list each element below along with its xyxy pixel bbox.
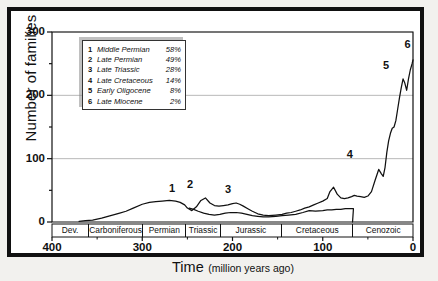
x-tick-label-300: 300 xyxy=(122,241,162,253)
legend-number: 5 xyxy=(88,86,97,96)
event-marker-4: 4 xyxy=(347,148,353,160)
chart-figure: Number of families Time (million years a… xyxy=(0,0,438,281)
legend-percent: 2% xyxy=(163,96,181,106)
legend-percent: 49% xyxy=(163,54,181,64)
x-tick-label-200: 200 xyxy=(213,241,253,253)
period-band-cenozoic: Cenozoic xyxy=(353,224,413,237)
legend-event-name: Late Triassic xyxy=(97,65,163,75)
legend-percent: 28% xyxy=(163,65,181,75)
event-marker-3: 3 xyxy=(225,183,231,195)
legend-number: 1 xyxy=(88,44,97,54)
legend-box: 1Middle Permian58%2Late Permian49%3Late … xyxy=(82,40,186,110)
x-axis-title-main: Time xyxy=(172,259,204,275)
legend-percent: 58% xyxy=(163,44,181,54)
x-tick-label-0: 0 xyxy=(393,241,433,253)
legend-percent: 8% xyxy=(163,86,181,96)
y-tick-label-300: 300 xyxy=(11,25,45,37)
x-tick-label-100: 100 xyxy=(303,241,343,253)
legend-row: 1Middle Permian58% xyxy=(88,44,181,54)
legend-event-name: Late Cretaceous xyxy=(97,75,163,85)
period-band-jurassic: Jurassic xyxy=(221,224,282,237)
legend-number: 3 xyxy=(88,65,97,75)
y-tick-label-200: 200 xyxy=(11,88,45,100)
period-band-triassic: Triassic xyxy=(186,224,220,237)
legend-event-name: Middle Permian xyxy=(97,44,163,54)
period-band-permian: Permian xyxy=(143,224,186,237)
event-marker-1: 1 xyxy=(169,182,175,194)
y-tick-label-0: 0 xyxy=(11,215,45,227)
y-tick-label-100: 100 xyxy=(11,152,45,164)
legend-number: 2 xyxy=(88,54,97,64)
legend-event-name: Late Permian xyxy=(97,54,163,64)
legend-row: 6Late Miocene2% xyxy=(88,96,181,106)
legend-number: 4 xyxy=(88,75,97,85)
event-marker-6: 6 xyxy=(405,38,411,50)
legend-event-name: Early Oligocene xyxy=(97,86,163,96)
legend-row: 3Late Triassic28% xyxy=(88,65,181,75)
x-axis-title: Time (million years ago) xyxy=(52,258,414,276)
event-marker-5: 5 xyxy=(383,59,389,71)
legend-table: 1Middle Permian58%2Late Permian49%3Late … xyxy=(88,44,181,106)
legend-percent: 14% xyxy=(163,75,181,85)
x-tick-label-400: 400 xyxy=(32,241,72,253)
x-axis-title-sub: (million years ago) xyxy=(208,262,294,274)
legend-event-name: Late Miocene xyxy=(97,96,163,106)
legend-row: 4Late Cretaceous14% xyxy=(88,75,181,85)
period-band-carboniferous: Carboniferous xyxy=(89,224,143,237)
plot-area xyxy=(0,0,438,281)
legend-row: 5Early Oligocene8% xyxy=(88,86,181,96)
legend-number: 6 xyxy=(88,96,97,106)
period-band-dev: Dev. xyxy=(52,224,89,237)
period-band-cretaceous: Cretaceous xyxy=(282,224,353,237)
event-marker-2: 2 xyxy=(187,178,193,190)
legend-row: 2Late Permian49% xyxy=(88,54,181,64)
